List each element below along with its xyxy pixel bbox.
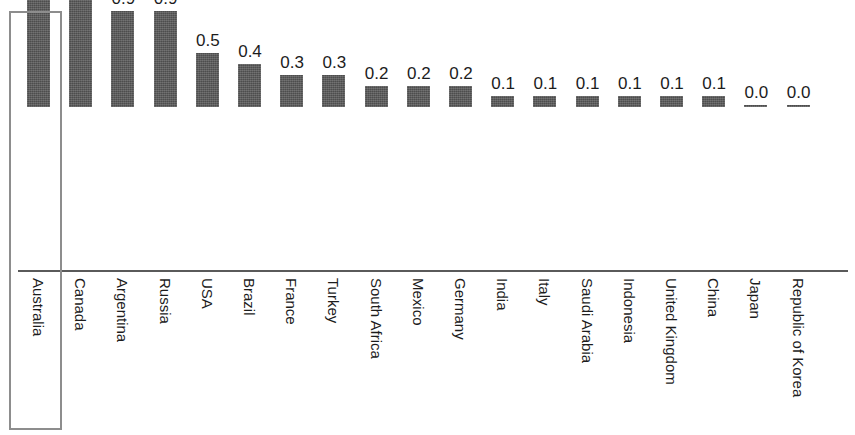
bar[interactable] — [27, 0, 50, 107]
bar-chart: 2.11.30.90.90.50.40.30.30.20.20.20.10.10… — [0, 0, 855, 435]
category-label: Australia — [31, 278, 46, 428]
category-label: Canada — [73, 278, 88, 428]
bar-value-label: 0.1 — [693, 74, 735, 93]
bar-value-label: 0.0 — [735, 83, 777, 102]
category-label: France — [284, 278, 299, 428]
bar[interactable] — [702, 96, 725, 107]
category-label: Argentina — [115, 278, 130, 428]
bar-value-label: 0.0 — [778, 83, 820, 102]
bar-value-label: 0.1 — [609, 74, 651, 93]
bar-value-label: 0.1 — [524, 74, 566, 93]
bar-value-label: 0.5 — [187, 31, 229, 50]
category-label: Russia — [158, 278, 173, 428]
bar[interactable] — [196, 53, 219, 107]
bar-value-label: 0.2 — [356, 64, 398, 83]
bar-value-label: 0.2 — [398, 64, 440, 83]
category-label: USA — [200, 278, 215, 428]
bar-value-label: 0.3 — [313, 53, 355, 72]
bar[interactable] — [407, 86, 430, 107]
category-label: China — [706, 278, 721, 428]
category-label: Japan — [748, 278, 763, 428]
category-label: Germany — [453, 278, 468, 428]
bar-value-label: 0.1 — [651, 74, 693, 93]
bar[interactable] — [576, 96, 599, 107]
bar[interactable] — [111, 11, 134, 107]
category-label: India — [495, 278, 510, 428]
category-label: Brazil — [242, 278, 257, 428]
bar-value-label: 0.3 — [271, 53, 313, 72]
bar[interactable] — [618, 96, 641, 107]
category-label: Italy — [537, 278, 552, 428]
bar[interactable] — [154, 11, 177, 107]
bar-value-label: 0.1 — [482, 74, 524, 93]
plot-area: 2.11.30.90.90.50.40.30.30.20.20.20.10.10… — [0, 0, 855, 272]
category-label: Republic of Korea — [791, 278, 806, 428]
bar[interactable] — [280, 75, 303, 107]
category-label: Turkey — [326, 278, 341, 428]
bar[interactable] — [322, 75, 345, 107]
bar-value-label: 0.9 — [102, 0, 144, 8]
bar[interactable] — [365, 86, 388, 107]
bar-value-label: 0.9 — [145, 0, 187, 8]
bar[interactable] — [660, 96, 683, 107]
category-label: Saudi Arabia — [580, 278, 595, 428]
bar[interactable] — [69, 0, 92, 107]
category-label: Indonesia — [622, 278, 637, 428]
category-label: United Kingdom — [664, 278, 679, 428]
category-label: South Africa — [369, 278, 384, 428]
x-axis-line — [18, 270, 848, 272]
bar-value-label: 0.4 — [229, 42, 271, 61]
bar[interactable] — [238, 64, 261, 107]
bar[interactable] — [787, 105, 810, 107]
bar[interactable] — [744, 105, 767, 107]
bar[interactable] — [491, 96, 514, 107]
bar[interactable] — [533, 96, 556, 107]
bar-value-label: 0.1 — [567, 74, 609, 93]
bar-value-label: 0.2 — [440, 64, 482, 83]
category-label: Mexico — [411, 278, 426, 428]
bar[interactable] — [449, 86, 472, 107]
